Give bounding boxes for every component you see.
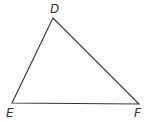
vertex-label-e: E — [6, 106, 14, 120]
vertex-label-d: D — [50, 2, 59, 16]
triangle-def — [12, 18, 139, 104]
triangle-diagram: D E F — [0, 0, 152, 122]
vertex-label-f: F — [134, 106, 142, 120]
